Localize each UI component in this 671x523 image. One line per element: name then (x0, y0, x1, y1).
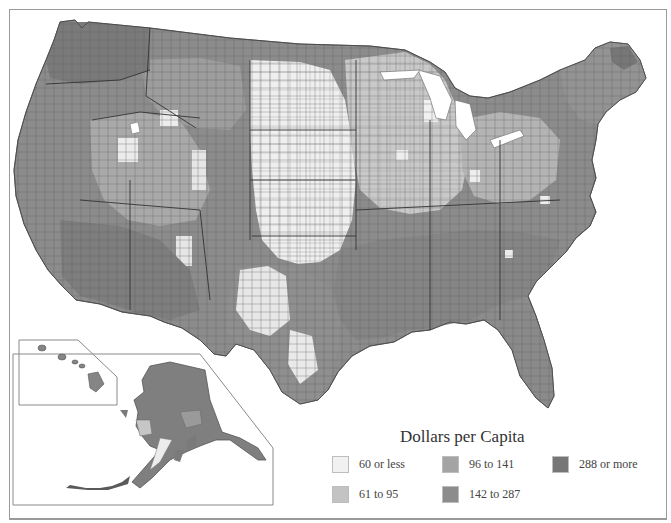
swatch-60-or-less (332, 456, 349, 473)
legend-label: 288 or more (579, 457, 638, 472)
legend-label: 142 to 287 (469, 487, 520, 502)
swatch-142-to-287 (442, 486, 459, 503)
legend-item-60-or-less: 60 or less (332, 456, 405, 473)
legend-label: 61 to 95 (359, 487, 398, 502)
alaska-hawaii-inset (13, 340, 273, 505)
legend-item-142-to-287: 142 to 287 (442, 486, 520, 503)
legend-item-288-or-more: 288 or more (552, 456, 638, 473)
county-boundaries (14, 20, 646, 408)
legend-item-61-to-95: 61 to 95 (332, 486, 398, 503)
legend-title: Dollars per Capita (400, 427, 525, 447)
swatch-61-to-95 (332, 486, 349, 503)
swatch-288-or-more (552, 456, 569, 473)
legend-item-96-to-141: 96 to 141 (442, 456, 514, 473)
legend: Dollars per Capita 60 or less 61 to 95 9… (330, 422, 660, 512)
swatch-96-to-141 (442, 456, 459, 473)
hawaii-map (38, 345, 104, 392)
legend-label: 60 or less (359, 457, 405, 472)
legend-label: 96 to 141 (469, 457, 514, 472)
